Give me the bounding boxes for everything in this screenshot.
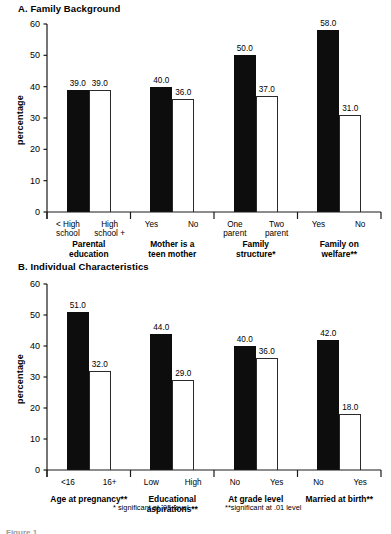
axes-lines (0, 258, 391, 506)
footnote-05: * significant at .05 level (113, 503, 189, 512)
figure-caption-clipped: Figure 1 (6, 528, 37, 534)
panel-individual-characteristics: B. Individual Characteristics 0102030405… (0, 258, 391, 506)
panel-family-background: A. Family Background 0102030405060percen… (0, 0, 391, 258)
plot-area-b: 0102030405060percentage51.0<1632.016+Age… (0, 258, 391, 516)
footnote-01: **significant at .01 level (225, 503, 301, 512)
axes-lines (0, 0, 391, 258)
plot-area-a: 0102030405060percentage39.0< Highschool3… (0, 0, 391, 258)
